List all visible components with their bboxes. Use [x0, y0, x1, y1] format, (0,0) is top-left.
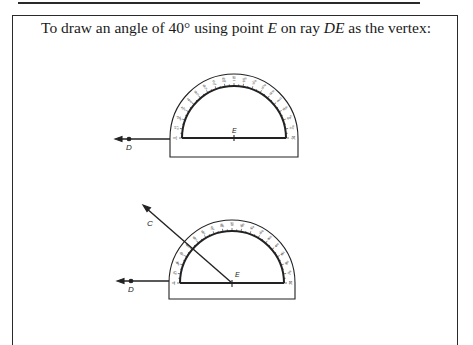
svg-text:180: 180: [175, 136, 178, 141]
point-d: [127, 137, 131, 141]
label-d-fig2: D: [128, 285, 134, 294]
figure-protractor-step1: 0180101702016030150401405013060120701108…: [115, 74, 298, 157]
label-e-fig2: E: [235, 271, 240, 278]
point-d: [129, 279, 133, 283]
label-d-fig1: D: [126, 143, 132, 152]
label-c-fig2: C: [147, 219, 153, 228]
figure-protractor-step2: 0180101702016030150401405013060120701108…: [117, 205, 295, 299]
arrowhead-icon: [117, 279, 124, 284]
arrowhead-icon: [115, 137, 122, 142]
label-e-fig1: E: [232, 127, 237, 134]
svg-text:180: 180: [173, 281, 176, 286]
